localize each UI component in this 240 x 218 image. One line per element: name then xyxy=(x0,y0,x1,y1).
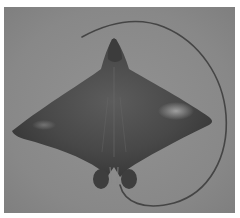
ray-head xyxy=(108,38,122,62)
fin-highlight xyxy=(158,102,194,120)
eagle-ray-illustration xyxy=(4,7,235,213)
pelvic-fin-right xyxy=(121,169,137,189)
pelvic-fin-left xyxy=(93,169,109,189)
photo-frame xyxy=(4,7,235,213)
